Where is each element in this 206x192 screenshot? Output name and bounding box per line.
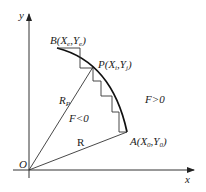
- point-p-label: P(Xi,Yj): [97, 58, 132, 72]
- radius-p-label: RP: [58, 94, 71, 108]
- radius-label: R: [77, 136, 85, 148]
- circular-interpolation-diagram: y x O B(Xe,Ye) P(Xi,Yj) A(X0,Y0) RP R F<…: [0, 0, 206, 192]
- point-a-label: A(X0,Y0): [129, 135, 167, 149]
- diagram-svg: y x O B(Xe,Ye) P(Xi,Yj) A(X0,Y0) RP R F<…: [0, 0, 206, 192]
- origin-label: O: [19, 158, 27, 170]
- y-axis-label: y: [18, 9, 24, 21]
- point-b-label: B(Xe,Ye): [50, 34, 86, 48]
- x-axis-label: x: [184, 173, 190, 185]
- region-inside-label: F<0: [68, 112, 89, 124]
- region-outside-label: F>0: [144, 93, 165, 105]
